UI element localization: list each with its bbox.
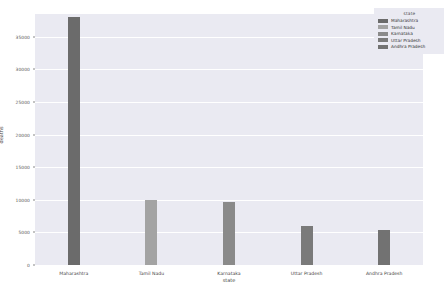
bar (223, 202, 235, 265)
y-axis-tick-label: 35000 (16, 34, 30, 39)
x-axis-tick-label: Uttar Pradesh (291, 271, 323, 276)
legend-item: Tamil Nadu (378, 25, 441, 30)
legend-item: Maharashtra (378, 18, 441, 23)
bar (145, 200, 157, 265)
x-axis-tick-label: Andhra Pradesh (366, 271, 403, 276)
x-axis-tick-label: Tamil Nadu (139, 271, 164, 276)
y-axis-tick-label: 5000 (18, 230, 30, 235)
legend-swatch-icon (378, 38, 388, 42)
y-axis-tick-label: 20000 (16, 132, 30, 137)
y-axis-tick-mark (33, 232, 35, 233)
y-axis: 05000100001500020000250003000035000 (0, 14, 35, 265)
bar (68, 17, 80, 265)
x-axis-tick-label: Maharashtra (59, 271, 88, 276)
legend-item: Karnataka (378, 31, 441, 36)
bar (378, 230, 390, 265)
y-axis-tick-label: 10000 (16, 197, 30, 202)
y-axis-label: deaths (0, 126, 4, 143)
y-axis-tick-mark (33, 199, 35, 200)
legend-swatch-icon (378, 32, 388, 36)
y-axis-tick-mark (33, 69, 35, 70)
y-axis-tick-mark (33, 167, 35, 168)
y-axis-tick-mark (33, 36, 35, 37)
y-axis-tick-mark (33, 102, 35, 103)
legend-swatch-icon (378, 25, 388, 29)
y-axis-tick-mark (33, 134, 35, 135)
legend-item: Uttar Pradesh (378, 38, 441, 43)
bar-chart-figure: 05000100001500020000250003000035000 deat… (0, 0, 446, 293)
y-axis-tick-label: 30000 (16, 67, 30, 72)
legend-item-label: Maharashtra (391, 18, 418, 23)
legend-item-label: Karnataka (391, 31, 413, 36)
bar-series (35, 14, 423, 265)
y-axis-tick-label: 15000 (16, 165, 30, 170)
legend: state MaharashtraTamil NaduKarnatakaUtta… (374, 8, 444, 54)
legend-title: state (378, 11, 441, 16)
legend-entries: MaharashtraTamil NaduKarnatakaUttar Prad… (378, 18, 441, 49)
plot-area (35, 14, 423, 265)
bar (301, 226, 313, 265)
x-axis-label: state (223, 277, 236, 283)
y-axis-tick-label: 25000 (16, 100, 30, 105)
legend-item: Andhra Pradesh (378, 44, 441, 49)
legend-swatch-icon (378, 45, 388, 49)
x-axis-tick-label: Karnataka (217, 271, 240, 276)
legend-swatch-icon (378, 19, 388, 23)
legend-item-label: Uttar Pradesh (391, 38, 421, 43)
legend-item-label: Andhra Pradesh (391, 44, 425, 49)
legend-item-label: Tamil Nadu (391, 25, 415, 30)
y-axis-tick-label: 0 (27, 263, 30, 268)
